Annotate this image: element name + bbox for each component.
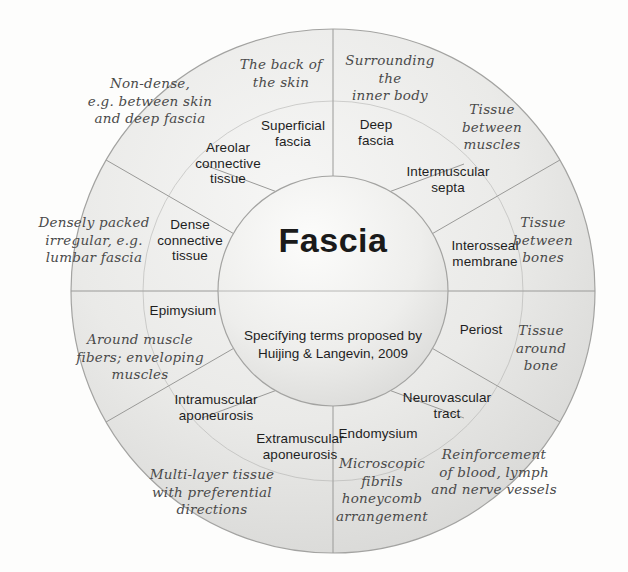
sector-desc-deep-fascia[interactable]: Surrounding the inner body xyxy=(345,52,434,105)
fascia-wheel-diagram: Fascia Specifying terms proposed by Huij… xyxy=(0,0,628,572)
sector-desc-areolar-connective-tissue[interactable]: Non-dense, e.g. between skin and deep fa… xyxy=(88,75,212,128)
sector-term-dense-connective-tissue[interactable]: Dense connective tissue xyxy=(157,217,223,264)
sector-term-intermuscular-septa[interactable]: Intermuscular septa xyxy=(406,164,489,195)
sector-term-epimysium[interactable]: Epimysium xyxy=(150,303,217,319)
hub-attribution: Specifying terms proposed by Huijing & L… xyxy=(213,327,453,363)
sector-desc-periost[interactable]: Tissue around bone xyxy=(516,322,566,375)
sector-term-deep-fascia[interactable]: Deep fascia xyxy=(358,117,394,148)
sector-term-intramuscular-aponeurosis[interactable]: Intramuscular aponeurosis xyxy=(174,392,257,423)
sector-desc-neurovascular-tract[interactable]: Reinforcement of blood, lymph and nerve … xyxy=(431,446,557,499)
sector-term-neurovascular-tract[interactable]: Neurovascular tract xyxy=(403,390,491,421)
sector-term-interosseal-membrane[interactable]: Interosseal membrane xyxy=(451,238,518,269)
sector-term-extramuscular-aponeurosis[interactable]: Extramuscular aponeurosis xyxy=(256,431,344,462)
page-title: Fascia xyxy=(279,221,388,260)
sector-desc-superficial-fascia[interactable]: The back of the skin xyxy=(240,56,323,91)
sector-desc-extramuscular-aponeurosis[interactable]: Multi-layer tissue with preferential dir… xyxy=(150,466,275,519)
sector-desc-epimysium[interactable]: Around muscle fibers; enveloping muscles xyxy=(76,331,204,384)
sector-term-areolar-connective-tissue[interactable]: Areolar connective tissue xyxy=(195,140,261,187)
sector-desc-interosseal-membrane[interactable]: Tissue between bones xyxy=(513,214,573,267)
sector-term-superficial-fascia[interactable]: Superficial fascia xyxy=(261,118,325,149)
sector-desc-dense-connective-tissue[interactable]: Densely packed irregular, e.g. lumbar fa… xyxy=(38,214,149,267)
sector-desc-intermuscular-septa[interactable]: Tissue between muscles xyxy=(462,101,522,154)
sector-term-endomysium[interactable]: Endomysium xyxy=(338,426,417,442)
sector-desc-endomysium[interactable]: Microscopic fibrils honeycomb arrangemen… xyxy=(336,455,428,525)
sector-term-periost[interactable]: Periost xyxy=(460,322,503,338)
